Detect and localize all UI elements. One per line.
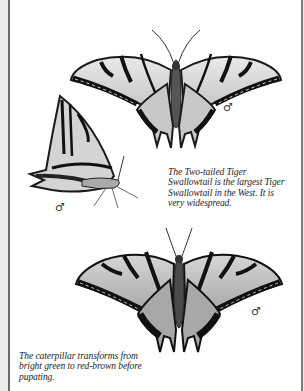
male-symbol-side: ♂ [55,202,65,213]
caption-species-note: The Two-tailed Tiger Swallowtail is the … [168,167,304,209]
male-symbol-bottom: ♂ [251,306,261,317]
butterfly-dorsal-icon [72,222,292,354]
butterfly-illustration-bottom [72,222,292,354]
butterfly-side-icon [26,94,146,214]
butterfly-illustration-side [26,94,146,214]
caption-caterpillar-note: The caterpillar transforms from bright g… [19,351,169,382]
male-symbol-top: ♂ [223,102,233,113]
page-gutter-left [0,0,8,391]
caption-line: very widespread. [168,198,304,208]
book-page: ♂ ♂ The Two-tailed Tiger Swallowtail is … [10,0,301,391]
page-gutter-right [303,0,304,391]
caption-line: pupating. [19,372,169,382]
